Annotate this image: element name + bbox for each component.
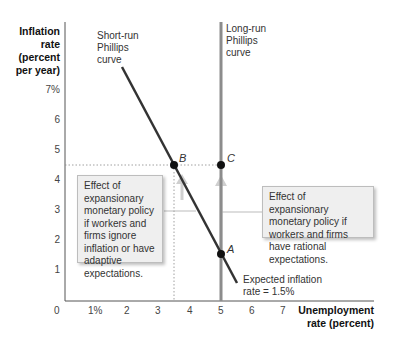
point-c (217, 161, 225, 169)
x-title-line: rate (percent) (280, 317, 374, 330)
point-b-label: B (179, 152, 186, 164)
x-tick: 6 (249, 305, 255, 316)
adaptive-expectations-box: Effect of expansionary monetary policy i… (77, 175, 163, 263)
y-title-line: rate (4, 38, 60, 51)
point-a-label: A (227, 243, 234, 255)
srpc-label-line: Phillips (97, 42, 139, 54)
x-tick: 2 (124, 305, 130, 316)
y-title-line: per year) (4, 64, 60, 77)
y-tick: 3 (40, 204, 60, 215)
y-tick: 1 (40, 264, 60, 275)
rational-expectations-box: Effect of expansionary monetary policy i… (262, 186, 374, 238)
y-tick: 6 (40, 114, 60, 125)
lrpc-label-line: Long-run (226, 23, 266, 35)
point-b (170, 161, 178, 169)
y-tick: 4 (40, 174, 60, 185)
x-title-line: Unemployment (280, 304, 374, 317)
x-tick: 5 (218, 305, 224, 316)
expected-inflation-line: Expected inflation (243, 274, 322, 286)
point-c-label: C (227, 152, 235, 164)
x-tick: 3 (155, 305, 161, 316)
y-axis-title: Inflation rate (percent per year) (4, 25, 60, 77)
y-title-line: Inflation (4, 25, 60, 38)
lrpc-label-line: curve (226, 47, 266, 59)
x-tick: 4 (187, 305, 193, 316)
point-a (217, 250, 225, 258)
srpc-label-line: Short-run (97, 30, 139, 42)
lrpc-label: Long-run Phillips curve (226, 23, 266, 59)
lrpc-label-line: Phillips (226, 35, 266, 47)
x-axis-title: Unemployment rate (percent) (280, 304, 374, 330)
expected-inflation-line: rate = 1.5% (243, 286, 322, 298)
y-title-line: (percent (4, 51, 60, 64)
srpc-label: Short-run Phillips curve (97, 30, 139, 66)
y-tick: 2 (40, 234, 60, 245)
expected-inflation-label: Expected inflation rate = 1.5% (243, 274, 322, 298)
x-tick: 0 (54, 305, 60, 316)
y-tick: 7% (40, 84, 60, 95)
y-tick: 5 (40, 144, 60, 155)
x-tick: 1% (88, 305, 102, 316)
srpc-label-line: curve (97, 54, 139, 66)
